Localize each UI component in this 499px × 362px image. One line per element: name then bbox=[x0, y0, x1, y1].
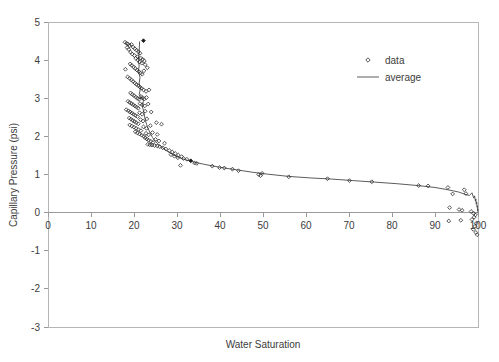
data-point bbox=[448, 206, 452, 210]
y-axis-ticks bbox=[44, 22, 48, 327]
x-tick-label: 10 bbox=[85, 220, 97, 231]
y-tick-label: 3 bbox=[34, 93, 40, 104]
x-tick-label: 80 bbox=[386, 220, 398, 231]
x-tick-label: 100 bbox=[470, 220, 487, 231]
x-tick-label: 0 bbox=[45, 220, 51, 231]
legend-marker-data bbox=[366, 58, 370, 62]
data-point bbox=[142, 69, 146, 73]
x-tick-label: 40 bbox=[214, 220, 226, 231]
x-axis-tick-labels: 0102030405060708090100 bbox=[45, 220, 487, 231]
x-axis-ticks bbox=[48, 213, 478, 217]
y-tick-label: 4 bbox=[34, 55, 40, 66]
y-tick-label: -1 bbox=[31, 245, 40, 256]
chart-legend: dataaverage bbox=[357, 55, 422, 83]
data-point bbox=[163, 141, 167, 145]
y-tick-label: 2 bbox=[34, 131, 40, 142]
data-point bbox=[149, 110, 153, 114]
data-point bbox=[179, 163, 183, 167]
average-line-series bbox=[138, 41, 478, 213]
x-tick-label: 60 bbox=[300, 220, 312, 231]
data-point bbox=[154, 121, 158, 125]
data-point bbox=[459, 218, 463, 222]
x-tick-label: 20 bbox=[128, 220, 140, 231]
data-point bbox=[462, 188, 466, 192]
data-point bbox=[145, 66, 149, 70]
capillary-pressure-chart: -3-2-1012345 0102030405060708090100 data… bbox=[0, 0, 499, 362]
x-tick-label: 90 bbox=[429, 220, 441, 231]
data-point bbox=[155, 133, 159, 137]
y-tick-label: 5 bbox=[34, 17, 40, 28]
y-tick-label: 0 bbox=[34, 207, 40, 218]
x-tick-label: 30 bbox=[171, 220, 183, 231]
data-point bbox=[446, 186, 450, 190]
y-axis-tick-labels: -3-2-1012345 bbox=[31, 17, 40, 333]
legend-label-data: data bbox=[385, 55, 405, 66]
x-tick-label: 70 bbox=[343, 220, 355, 231]
y-tick-label: 1 bbox=[34, 169, 40, 180]
y-tick-label: -2 bbox=[31, 283, 40, 294]
data-point bbox=[189, 159, 193, 163]
x-axis-title: Water Saturation bbox=[226, 339, 301, 350]
y-axis-title: Capillary Pressure (psi) bbox=[8, 123, 19, 227]
data-point bbox=[451, 192, 455, 196]
data-point bbox=[447, 219, 451, 223]
y-tick-label: -3 bbox=[31, 322, 40, 333]
data-point bbox=[151, 131, 155, 135]
data-point bbox=[160, 122, 164, 126]
data-point-series bbox=[123, 39, 479, 237]
x-tick-label: 50 bbox=[257, 220, 269, 231]
data-point bbox=[142, 39, 146, 43]
data-point bbox=[124, 67, 128, 71]
average-line-path bbox=[138, 41, 478, 213]
chart-plot-area: -3-2-1012345 0102030405060708090100 data… bbox=[0, 0, 499, 362]
data-point bbox=[146, 102, 150, 106]
data-point bbox=[148, 124, 152, 128]
legend-label-average: average bbox=[385, 72, 422, 83]
